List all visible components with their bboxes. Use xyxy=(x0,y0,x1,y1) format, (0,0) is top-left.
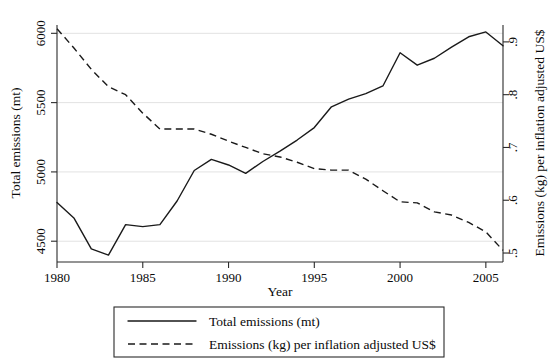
x-tick-label: 1995 xyxy=(301,270,327,285)
y2-axis-title: Emissions (kg) per inflation adjusted US… xyxy=(532,29,547,256)
series-line-emissions-per-usd xyxy=(57,29,503,251)
chart-figure: 4500500055006000 .5.6.7.8.9 198019851990… xyxy=(0,0,554,362)
legend-label-emissions-per-usd: Emissions (kg) per inflation adjusted US… xyxy=(209,337,436,352)
x-tick-label: 1980 xyxy=(44,270,70,285)
x-tick-group: 198019851990199520002005 xyxy=(44,262,499,285)
x-tick-label: 2000 xyxy=(387,270,413,285)
right-tick-label: .8 xyxy=(505,90,520,100)
right-tick-label: .6 xyxy=(505,195,520,205)
chart-legend: Total emissions (mt) Emissions (kg) per … xyxy=(114,307,444,357)
right-tick-label: .9 xyxy=(505,37,520,47)
x-tick-label: 1985 xyxy=(130,270,156,285)
x-tick-label: 2005 xyxy=(473,270,499,285)
x-tick-label: 1990 xyxy=(216,270,242,285)
left-tick-label: 4500 xyxy=(33,228,48,254)
right-tick-label: .5 xyxy=(505,248,520,258)
left-tick-group: 4500500055006000 xyxy=(33,20,57,254)
gridline-group xyxy=(57,33,503,241)
left-tick-label: 5500 xyxy=(33,90,48,116)
left-tick-label: 6000 xyxy=(33,20,48,46)
series-line-total-emissions xyxy=(57,32,503,255)
right-tick-group: .5.6.7.8.9 xyxy=(503,37,520,258)
left-tick-label: 5000 xyxy=(33,159,48,185)
chart-canvas: 4500500055006000 .5.6.7.8.9 198019851990… xyxy=(0,0,554,362)
y-axis-title: Total emissions (mt) xyxy=(8,88,23,199)
legend-label-total-emissions: Total emissions (mt) xyxy=(209,314,320,329)
right-tick-label: .7 xyxy=(505,142,520,152)
x-axis-title: Year xyxy=(268,284,293,299)
